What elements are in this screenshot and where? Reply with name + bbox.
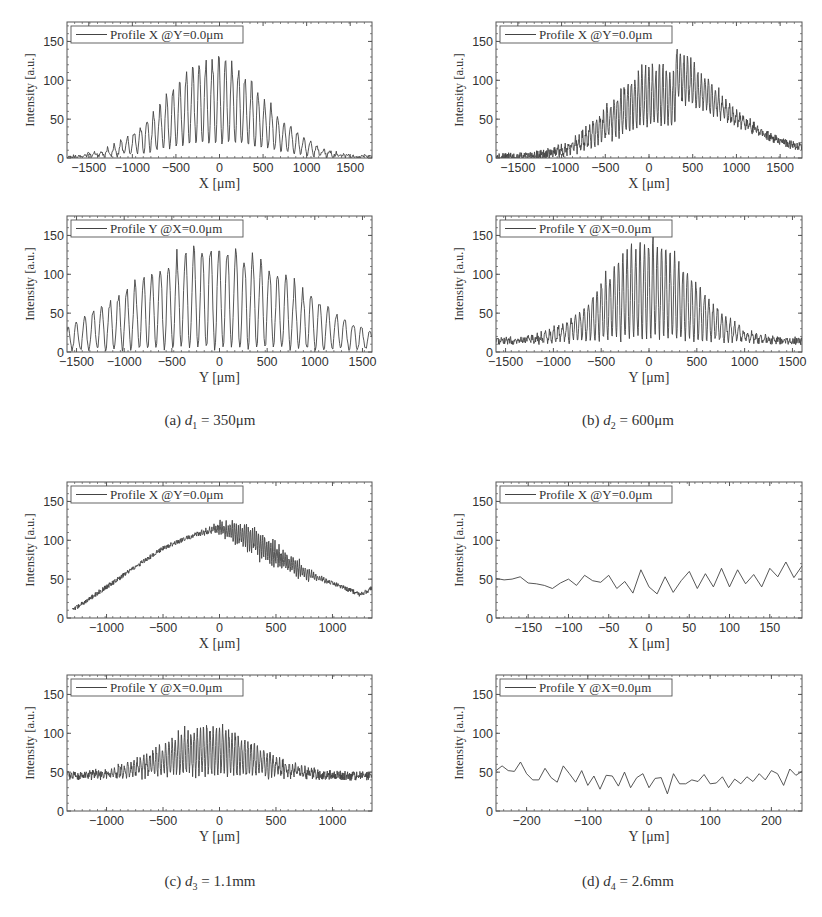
x-tick-label: −1500 xyxy=(71,161,106,175)
y-tick-label: 0 xyxy=(57,152,64,166)
x-tick-label: −1500 xyxy=(59,355,94,369)
x-tick-label: −500 xyxy=(149,621,177,635)
data-series-line xyxy=(496,237,802,345)
y-tick-label: 0 xyxy=(486,805,493,819)
x-tick-label: 1000 xyxy=(731,355,759,369)
y-axis-label: Intensity [a.u.] xyxy=(23,53,37,126)
x-tick-label: 0 xyxy=(216,814,223,828)
data-series-line xyxy=(496,49,802,158)
data-series-line xyxy=(67,56,372,158)
x-tick-label: 500 xyxy=(253,161,274,175)
legend: Profile Y @X=0.0μm xyxy=(71,679,243,696)
x-tick-label: −1000 xyxy=(115,161,150,175)
y-tick-label: 50 xyxy=(50,307,64,321)
y-axis-label: Intensity [a.u.] xyxy=(452,247,466,320)
x-tick-label: 150 xyxy=(759,621,780,635)
y-axis-label: Intensity [a.u.] xyxy=(23,706,37,779)
x-tick-label: 1500 xyxy=(349,355,377,369)
plot-b-top: −1500−1000−500050010001500050100150X [μm… xyxy=(429,0,822,200)
x-tick-label: 500 xyxy=(266,621,287,635)
y-axis-label: Intensity [a.u.] xyxy=(452,513,466,586)
x-tick-label: 500 xyxy=(266,814,287,828)
legend: Profile X @Y=0.0μm xyxy=(500,26,672,43)
x-tick-label: 200 xyxy=(761,814,782,828)
legend: Profile Y @X=0.0μm xyxy=(71,220,243,237)
y-tick-label: 150 xyxy=(43,229,64,243)
y-tick-label: 50 xyxy=(479,573,493,587)
x-axis-label: Y [μm] xyxy=(199,370,240,385)
x-tick-label: 0 xyxy=(216,355,223,369)
x-tick-label: −1000 xyxy=(544,161,579,175)
y-tick-label: 150 xyxy=(43,688,64,702)
y-axis-label: Intensity [a.u.] xyxy=(23,513,37,586)
y-tick-label: 100 xyxy=(472,74,493,88)
y-tick-label: 50 xyxy=(50,573,64,587)
x-axis-label: Y [μm] xyxy=(199,829,240,844)
y-tick-label: 150 xyxy=(472,688,493,702)
x-axis-label: Y [μm] xyxy=(629,829,670,844)
y-tick-label: 0 xyxy=(486,612,493,626)
x-tick-label: −150 xyxy=(514,621,542,635)
x-axis-label: X [μm] xyxy=(628,636,669,651)
x-tick-label: −200 xyxy=(513,814,541,828)
x-tick-label: −1000 xyxy=(89,621,124,635)
y-axis-label: Intensity [a.u.] xyxy=(23,247,37,320)
data-series-line xyxy=(73,520,372,610)
y-tick-label: 100 xyxy=(43,534,64,548)
x-tick-label: 500 xyxy=(686,355,707,369)
plot-b-bottom: −1500−1000−500050010001500050100150Y [μm… xyxy=(429,194,822,394)
y-tick-label: 50 xyxy=(479,766,493,780)
x-tick-label: −1500 xyxy=(488,355,523,369)
x-axis-label: Y [μm] xyxy=(629,370,670,385)
x-tick-label: 100 xyxy=(700,814,721,828)
plot-a-top: −1500−1000−500050010001500050100150X [μm… xyxy=(0,0,410,200)
x-tick-label: 0 xyxy=(216,621,223,635)
x-tick-label: 1000 xyxy=(301,355,329,369)
y-tick-label: 150 xyxy=(43,35,64,49)
x-tick-label: 1000 xyxy=(319,621,347,635)
y-tick-label: 0 xyxy=(486,346,493,360)
x-tick-label: 1500 xyxy=(336,161,364,175)
y-tick-label: 100 xyxy=(472,534,493,548)
x-tick-label: 1000 xyxy=(319,814,347,828)
y-tick-label: 50 xyxy=(50,113,64,127)
y-tick-label: 150 xyxy=(472,495,493,509)
caption-b: (b) d2 = 600μm xyxy=(428,412,822,431)
data-series-line xyxy=(496,562,802,594)
legend: Profile X @Y=0.0μm xyxy=(500,486,672,503)
x-tick-label: 1000 xyxy=(723,161,751,175)
data-series-line xyxy=(67,724,372,781)
plot-d-top: −150−100−50050100150050100150X [μm]Inten… xyxy=(429,460,822,660)
caption-a: (a) d1 = 350μm xyxy=(10,412,410,431)
x-tick-label: −1000 xyxy=(536,355,571,369)
data-series-line xyxy=(67,246,372,351)
legend-label: Profile Y @X=0.0μm xyxy=(539,221,651,236)
legend-label: Profile X @Y=0.0μm xyxy=(110,27,223,42)
x-tick-label: −50 xyxy=(598,621,619,635)
x-axis-label: X [μm] xyxy=(199,636,240,651)
y-tick-label: 0 xyxy=(486,152,493,166)
x-tick-label: −500 xyxy=(162,161,190,175)
x-tick-label: −500 xyxy=(149,814,177,828)
caption-d: (d) d4 = 2.6mm xyxy=(428,873,822,892)
y-axis-label: Intensity [a.u.] xyxy=(452,53,466,126)
x-tick-label: 1500 xyxy=(766,161,794,175)
x-tick-label: 0 xyxy=(646,161,653,175)
legend: Profile Y @X=0.0μm xyxy=(500,220,672,237)
x-tick-label: 0 xyxy=(646,621,653,635)
legend-label: Profile X @Y=0.0μm xyxy=(110,487,223,502)
x-axis-label: X [μm] xyxy=(199,176,240,191)
x-tick-label: 0 xyxy=(646,355,653,369)
x-tick-label: 50 xyxy=(682,621,696,635)
legend-label: Profile X @Y=0.0μm xyxy=(539,27,652,42)
legend-label: Profile Y @X=0.0μm xyxy=(110,680,222,695)
x-tick-label: 0 xyxy=(646,814,653,828)
legend-label: Profile Y @X=0.0μm xyxy=(110,221,222,236)
legend-label: Profile Y @X=0.0μm xyxy=(539,680,651,695)
y-tick-label: 100 xyxy=(43,268,64,282)
x-tick-label: 1000 xyxy=(293,161,321,175)
data-series-line xyxy=(496,762,802,794)
y-tick-label: 150 xyxy=(472,35,493,49)
legend: Profile X @Y=0.0μm xyxy=(71,486,243,503)
x-tick-label: −1000 xyxy=(107,355,142,369)
